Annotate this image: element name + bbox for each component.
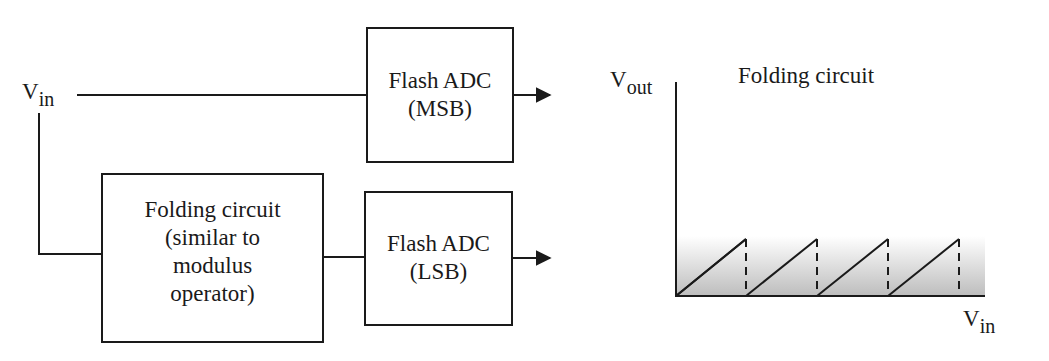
folding-circuit-label: Folding circuit (similar to modulus oper…: [102, 196, 323, 308]
folding-line4: operator): [102, 280, 323, 308]
msb-line1: Flash ADC: [367, 67, 513, 95]
vout-label-main: V: [610, 67, 627, 92]
graph-shaded-region: [676, 236, 985, 296]
vin-to-folding-wire: [39, 113, 102, 254]
vin-label-main: V: [22, 79, 39, 104]
folding-line3: modulus: [102, 252, 323, 280]
flash-adc-msb-label: Flash ADC (MSB): [367, 67, 513, 123]
lsb-line1: Flash ADC: [365, 230, 512, 258]
flash-adc-lsb-label: Flash ADC (LSB): [365, 230, 512, 286]
msb-line2: (MSB): [367, 95, 513, 123]
folding-line2: (similar to: [102, 224, 323, 252]
folding-line1: Folding circuit: [102, 196, 323, 224]
graph-x-axis-label: Vin: [963, 305, 995, 333]
vout-label-sub: out: [627, 76, 653, 98]
vin-input-label: Vin: [22, 78, 54, 106]
graph-title: Folding circuit: [738, 62, 874, 89]
lsb-line2: (LSB): [365, 258, 512, 286]
vin-axis-label-main: V: [963, 306, 980, 331]
vin-axis-label-sub: in: [980, 315, 996, 337]
vin-label-sub: in: [39, 88, 55, 110]
graph-y-axis-label: Vout: [610, 66, 652, 94]
